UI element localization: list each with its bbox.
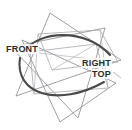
tick-top <box>113 72 121 78</box>
diagram-canvas <box>0 0 132 130</box>
label-top: TOP <box>91 69 112 79</box>
orientation-diagram: FRONT RIGHT TOP <box>0 0 132 130</box>
label-right: RIGHT <box>81 58 112 68</box>
label-front: FRONT <box>5 44 39 54</box>
triangle-1-shape <box>16 13 121 96</box>
